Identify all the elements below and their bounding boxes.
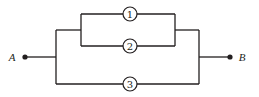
component-3-label: 3 — [127, 79, 133, 90]
circuit-diagram: A 1 2 3 B — [0, 0, 259, 97]
component-2: 2 — [123, 39, 137, 53]
terminal-b-node — [227, 54, 232, 59]
component-1: 1 — [123, 7, 137, 21]
terminal-b-label: B — [239, 51, 246, 63]
terminal-a-label: A — [8, 51, 16, 63]
component-3: 3 — [123, 77, 137, 91]
component-2-label: 2 — [127, 41, 133, 52]
component-1-label: 1 — [127, 9, 133, 20]
